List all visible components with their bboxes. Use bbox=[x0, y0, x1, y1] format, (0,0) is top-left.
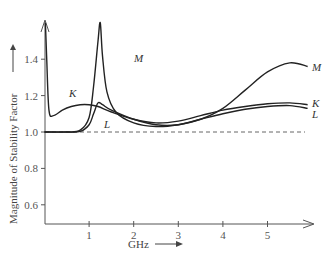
y-axis-title: Magnitude of Stability Factor bbox=[7, 93, 19, 224]
y-axis-title-arrow bbox=[10, 44, 16, 72]
arrow-right-icon bbox=[176, 241, 183, 247]
axes bbox=[41, 20, 314, 228]
y-tick-label: 1.0 bbox=[24, 126, 38, 138]
x-axis-title-arrow bbox=[155, 241, 183, 247]
y-tick-label: 1.4 bbox=[24, 53, 38, 65]
curve-m bbox=[45, 22, 308, 132]
y-tick-label: 0.8 bbox=[24, 162, 38, 174]
x-tick-label: 3 bbox=[176, 229, 182, 241]
stability-factor-chart: 0.60.81.01.21.4 12345 K L M M K L Magnit… bbox=[0, 0, 329, 266]
x-tick-label: 1 bbox=[86, 229, 92, 241]
curve-label-l-left: L bbox=[103, 118, 110, 130]
y-tick-label: 1.2 bbox=[24, 90, 38, 102]
curve-label-m-left: M bbox=[133, 52, 144, 64]
y-ticks: 0.60.81.01.21.4 bbox=[24, 53, 45, 211]
curves bbox=[45, 22, 308, 132]
curve-label-m-right: M bbox=[311, 61, 322, 73]
arrow-up-icon bbox=[10, 44, 16, 50]
curve-k bbox=[45, 23, 307, 123]
curve-label-l-right: L bbox=[311, 108, 318, 120]
x-tick-label: 4 bbox=[220, 229, 226, 241]
x-axis-title: GHz bbox=[128, 238, 149, 250]
curve-label-k-left: K bbox=[68, 87, 77, 99]
x-tick-label: 5 bbox=[265, 229, 271, 241]
y-tick-label: 0.6 bbox=[24, 199, 38, 211]
